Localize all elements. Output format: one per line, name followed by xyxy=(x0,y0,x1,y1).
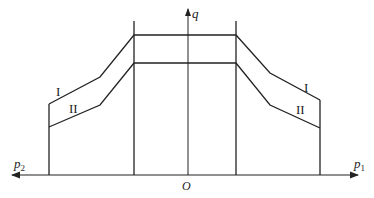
curve-I xyxy=(49,35,320,104)
p2-label: p2 xyxy=(13,156,25,173)
p1-label: p1 xyxy=(353,156,365,173)
curve-II-label-left: II xyxy=(69,101,78,116)
pressure-flow-diagram: q p2 p1 O I II I II xyxy=(0,0,374,198)
curve-I-label-right: I xyxy=(304,80,308,95)
curve-II-label-right: II xyxy=(296,102,305,117)
curve-II xyxy=(49,63,320,128)
curve-I-label-left: I xyxy=(56,84,60,99)
origin-label: O xyxy=(182,179,191,193)
q-axis-label: q xyxy=(192,6,199,21)
